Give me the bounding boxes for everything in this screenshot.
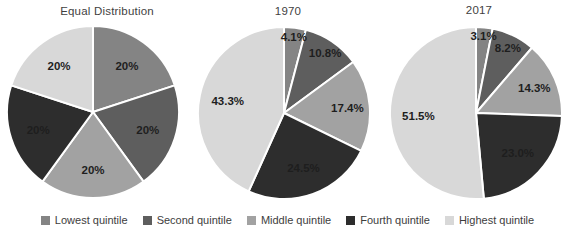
legend-item-fourth-quintile: Fourth quintile — [346, 214, 430, 226]
legend-label: Second quintile — [157, 214, 232, 226]
legend-label: Middle quintile — [261, 214, 331, 226]
pie-slice-label: 20% — [48, 60, 71, 72]
pie-slice-label: 10.8% — [309, 47, 342, 59]
legend-swatch — [445, 216, 454, 225]
pie-slice-label: 14.3% — [518, 82, 551, 94]
pie-slice-label: 8.2% — [495, 42, 521, 54]
legend-item-second-quintile: Second quintile — [143, 214, 232, 226]
pie-slice-label: 23.0% — [501, 147, 534, 159]
pie-chart-1970: 4.1%10.8%17.4%24.5%43.3% — [196, 25, 372, 201]
pie-slice-label: 3.1% — [470, 30, 496, 42]
legend-label: Lowest quintile — [55, 214, 128, 226]
pie-slice-label: 20% — [81, 164, 104, 176]
legend-item-lowest-quintile: Lowest quintile — [41, 214, 128, 226]
pie-chart-equal-distribution: 20%20%20%20%20% — [5, 24, 181, 200]
pie-slice-label: 4.1% — [281, 31, 307, 43]
pie-chart-2017: 3.1%8.2%14.3%23.0%51.5% — [388, 25, 564, 201]
pie-slice-label: 20% — [136, 124, 159, 136]
legend-swatch — [41, 216, 50, 225]
chart-title-2017: 2017 — [394, 4, 564, 16]
legend-item-highest-quintile: Highest quintile — [445, 214, 534, 226]
legend-item-middle-quintile: Middle quintile — [247, 214, 331, 226]
pie-slice-label: 17.4% — [331, 102, 364, 114]
chart-title-equal-distribution: Equal Distribution — [22, 5, 192, 17]
legend-swatch — [346, 216, 355, 225]
pie-slice-label: 20% — [115, 60, 138, 72]
pie-slice-label: 51.5% — [402, 110, 435, 122]
chart-legend: Lowest quintileSecond quintileMiddle qui… — [0, 214, 575, 226]
pie-slice-label: 20% — [27, 124, 50, 136]
pie-slice-label: 24.5% — [287, 162, 320, 174]
chart-title-1970: 1970 — [203, 5, 373, 17]
legend-label: Highest quintile — [459, 214, 534, 226]
legend-swatch — [247, 216, 256, 225]
legend-label: Fourth quintile — [360, 214, 430, 226]
income-quintile-pie-panel: Equal Distribution 1970 2017 20%20%20%20… — [0, 0, 575, 231]
legend-swatch — [143, 216, 152, 225]
pie-slice-label: 43.3% — [211, 95, 244, 107]
